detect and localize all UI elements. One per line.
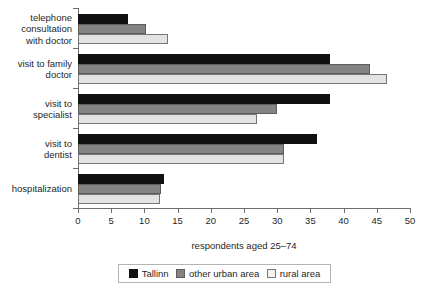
legend-swatch-icon-tallinn xyxy=(129,269,138,278)
category-label-2: visit to specialist xyxy=(2,98,72,121)
x-axis-tick xyxy=(310,208,311,213)
category-label-1: visit to family doctor xyxy=(2,58,72,81)
x-axis-tick xyxy=(144,208,145,213)
y-axis-tick xyxy=(73,168,78,169)
legend-swatch-icon-rural xyxy=(267,269,276,278)
x-axis-tick xyxy=(211,208,212,213)
x-axis-tick-label-15: 15 xyxy=(172,215,183,226)
legend-item-2[interactable]: rural area xyxy=(267,268,321,279)
x-axis-tick-label-25: 25 xyxy=(239,215,250,226)
bar-1-1[interactable] xyxy=(78,64,370,74)
bar-3-2[interactable] xyxy=(78,154,284,164)
x-axis-tick-label-5: 5 xyxy=(109,215,114,226)
x-axis-tick-label-30: 30 xyxy=(272,215,283,226)
bar-3-1[interactable] xyxy=(78,144,284,154)
bar-0-2[interactable] xyxy=(78,34,168,44)
bar-4-1[interactable] xyxy=(78,184,161,194)
y-axis-tick xyxy=(73,128,78,129)
y-axis-tick xyxy=(73,48,78,49)
bar-0-0[interactable] xyxy=(78,14,128,24)
x-axis-title: respondents aged 25–74 xyxy=(78,240,410,251)
x-axis-tick xyxy=(178,208,179,213)
legend-swatch-icon-other-urban xyxy=(176,269,185,278)
bar-chart: telephone consultation with doctorvisit … xyxy=(0,0,428,295)
x-axis-tick xyxy=(78,208,79,213)
category-label-4: hospitalization xyxy=(2,183,72,195)
legend-item-0[interactable]: Tallinn xyxy=(129,268,169,279)
x-axis-tick xyxy=(344,208,345,213)
category-label-3: visit to dentist xyxy=(2,138,72,161)
bar-2-1[interactable] xyxy=(78,104,277,114)
bar-2-0[interactable] xyxy=(78,94,330,104)
x-axis-tick-label-45: 45 xyxy=(372,215,383,226)
bar-2-2[interactable] xyxy=(78,114,257,124)
x-axis-tick-label-20: 20 xyxy=(206,215,217,226)
x-axis-tick xyxy=(377,208,378,213)
bar-1-2[interactable] xyxy=(78,74,387,84)
legend-label-1: other urban area xyxy=(189,268,259,279)
bar-0-1[interactable] xyxy=(78,24,146,34)
bar-1-0[interactable] xyxy=(78,54,330,64)
x-axis-tick-label-10: 10 xyxy=(139,215,150,226)
bar-4-0[interactable] xyxy=(78,174,164,184)
x-axis-tick-label-50: 50 xyxy=(405,215,416,226)
x-axis-tick-label-35: 35 xyxy=(305,215,316,226)
x-axis-tick xyxy=(410,208,411,213)
bar-4-2[interactable] xyxy=(78,194,160,204)
x-axis-tick-label-0: 0 xyxy=(75,215,80,226)
legend-label-0: Tallinn xyxy=(142,268,169,279)
category-label-0: telephone consultation with doctor xyxy=(2,12,72,47)
y-axis-tick xyxy=(73,88,78,89)
chart-legend: Tallinn other urban area rural area xyxy=(118,264,331,283)
x-axis-tick-label-40: 40 xyxy=(338,215,349,226)
x-axis-tick xyxy=(244,208,245,213)
plot-area: telephone consultation with doctorvisit … xyxy=(78,8,410,208)
x-axis-tick xyxy=(277,208,278,213)
legend-label-2: rural area xyxy=(280,268,321,279)
x-axis-tick xyxy=(111,208,112,213)
y-axis-tick xyxy=(73,8,78,9)
legend-item-1[interactable]: other urban area xyxy=(176,268,259,279)
bar-3-0[interactable] xyxy=(78,134,317,144)
